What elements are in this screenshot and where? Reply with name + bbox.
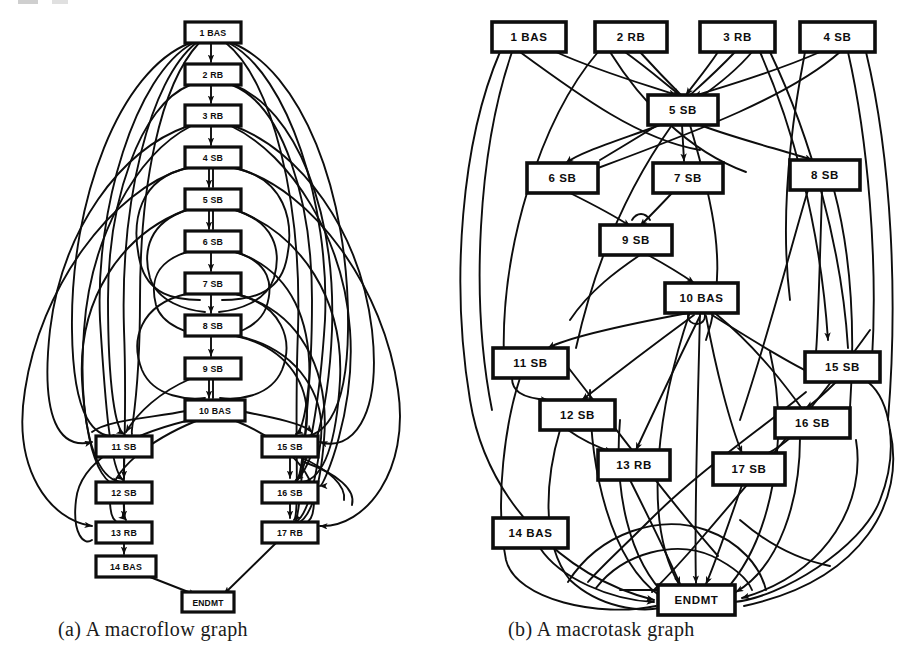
node-a-15[interactable]: 15 SB xyxy=(262,436,318,457)
node-label: 16 SB xyxy=(277,488,302,498)
node-label: ENDMT xyxy=(192,598,224,608)
figure-canvas: 1 BAS2 RB3 RB4 SB5 SB6 SB7 SB8 SB9 SB10 … xyxy=(0,0,910,665)
node-b-7[interactable]: 7 SB xyxy=(653,163,723,193)
node-b-1[interactable]: 1 BAS xyxy=(492,22,566,52)
caption-macrotask-graph: (b) A macrotask graph xyxy=(508,618,695,641)
node-label: 8 SB xyxy=(203,321,223,331)
node-b-3[interactable]: 3 RB xyxy=(700,22,775,52)
node-a-4[interactable]: 4 SB xyxy=(185,147,241,168)
node-b-END[interactable]: ENDMT xyxy=(658,585,735,615)
node-label: 2 RB xyxy=(203,70,224,80)
node-b-16[interactable]: 16 SB xyxy=(775,408,850,438)
node-b-13[interactable]: 13 RB xyxy=(598,450,670,480)
node-label: 14 BAS xyxy=(509,527,553,539)
node-label: 1 BAS xyxy=(511,31,548,43)
node-a-12[interactable]: 12 SB xyxy=(96,482,152,503)
node-label: ENDMT xyxy=(675,594,719,606)
node-b-17[interactable]: 17 SB xyxy=(713,453,785,485)
node-label: 14 BAS xyxy=(110,562,142,572)
node-a-6[interactable]: 6 SB xyxy=(185,231,241,252)
node-a-2[interactable]: 2 RB xyxy=(185,64,241,85)
node-label: 9 SB xyxy=(622,234,650,246)
node-label: 13 RB xyxy=(111,528,137,538)
node-a-3[interactable]: 3 RB xyxy=(185,105,241,126)
node-a-16[interactable]: 16 SB xyxy=(262,482,318,503)
node-label: 13 RB xyxy=(616,459,652,471)
node-label: 7 SB xyxy=(674,172,702,184)
node-label: 10 BAS xyxy=(199,406,231,416)
node-b-9[interactable]: 9 SB xyxy=(600,225,672,255)
node-label: 16 SB xyxy=(795,417,830,429)
node-a-13[interactable]: 13 RB xyxy=(96,522,152,543)
node-b-6[interactable]: 6 SB xyxy=(527,163,598,193)
node-b-14[interactable]: 14 BAS xyxy=(493,518,568,548)
node-label: 9 SB xyxy=(203,364,223,374)
node-b-11[interactable]: 11 SB xyxy=(493,348,568,378)
node-label: 3 RB xyxy=(723,31,752,43)
node-label: 17 RB xyxy=(277,528,303,538)
node-label: 4 SB xyxy=(824,31,852,43)
node-label: 11 SB xyxy=(112,442,137,452)
node-b-10[interactable]: 10 BAS xyxy=(665,283,738,313)
node-label: 10 BAS xyxy=(680,292,724,304)
node-a-8[interactable]: 8 SB xyxy=(185,315,241,336)
node-a-11[interactable]: 11 SB xyxy=(96,436,152,457)
node-label: 4 SB xyxy=(203,153,223,163)
node-label: 15 SB xyxy=(277,442,302,452)
node-label: 1 BAS xyxy=(200,28,227,38)
node-b-4[interactable]: 4 SB xyxy=(800,22,875,52)
node-label: 8 SB xyxy=(811,169,839,181)
node-label: 2 RB xyxy=(617,31,646,43)
node-label: 6 SB xyxy=(549,172,577,184)
node-b-5[interactable]: 5 SB xyxy=(648,95,718,125)
node-label: 6 SB xyxy=(203,237,223,247)
node-label: 12 SB xyxy=(111,488,136,498)
caption-macroflow-graph: (a) A macroflow graph xyxy=(58,618,248,641)
node-label: 17 SB xyxy=(732,463,767,475)
node-label: 7 SB xyxy=(203,279,223,289)
node-a-10[interactable]: 10 BAS xyxy=(185,400,245,421)
node-a-1[interactable]: 1 BAS xyxy=(185,22,241,43)
node-label: 11 SB xyxy=(513,357,547,369)
node-b-2[interactable]: 2 RB xyxy=(595,22,667,52)
node-a-END[interactable]: ENDMT xyxy=(182,592,234,612)
node-a-17[interactable]: 17 RB xyxy=(262,522,318,543)
node-a-5[interactable]: 5 SB xyxy=(185,189,241,210)
node-label: 3 RB xyxy=(203,111,224,121)
node-label: 15 SB xyxy=(825,361,860,373)
node-b-15[interactable]: 15 SB xyxy=(805,352,880,382)
node-label: 12 SB xyxy=(560,409,595,421)
node-label: 5 SB xyxy=(669,104,697,116)
node-label: 5 SB xyxy=(203,195,223,205)
node-a-7[interactable]: 7 SB xyxy=(185,273,241,294)
node-b-8[interactable]: 8 SB xyxy=(790,160,860,190)
node-b-12[interactable]: 12 SB xyxy=(540,400,615,430)
node-a-9[interactable]: 9 SB xyxy=(185,358,241,379)
node-a-14[interactable]: 14 BAS xyxy=(96,556,156,577)
